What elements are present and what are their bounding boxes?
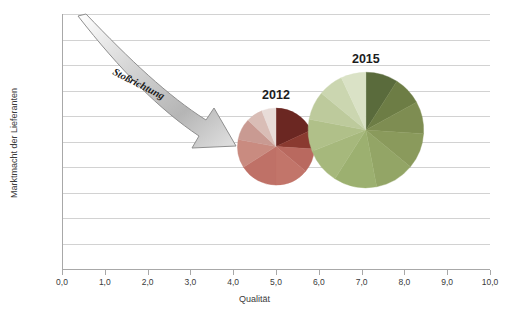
- x-tick-mark: [233, 270, 234, 275]
- gridline: [62, 14, 490, 15]
- x-tick-label: 0,0: [47, 277, 77, 287]
- x-tick-mark: [447, 270, 448, 275]
- plot-area: [62, 14, 490, 269]
- x-tick-mark: [362, 270, 363, 275]
- x-tick-mark: [190, 270, 191, 275]
- gridline: [62, 65, 490, 66]
- gridline: [62, 116, 490, 117]
- x-tick-label: 2,0: [133, 277, 163, 287]
- x-tick-label: 10,0: [475, 277, 505, 287]
- x-tick-mark: [319, 270, 320, 275]
- x-tick-label: 8,0: [389, 277, 419, 287]
- gridline: [62, 193, 490, 194]
- x-tick-label: 4,0: [218, 277, 248, 287]
- gridline: [62, 142, 490, 143]
- x-tick-label: 9,0: [432, 277, 462, 287]
- gridline: [62, 244, 490, 245]
- x-tick-mark: [276, 270, 277, 275]
- y-axis-line: [62, 14, 63, 270]
- x-tick-mark: [105, 270, 106, 275]
- x-axis-title: Qualität: [0, 294, 509, 304]
- bubble-pie-chart: 10,09,08,07,06,05,04,03,02,01,00,0 Stoßr…: [0, 0, 509, 314]
- y-axis-title: Marktmacht der Lieferanten: [9, 53, 19, 233]
- gridline: [62, 218, 490, 219]
- x-tick-mark: [148, 270, 149, 275]
- x-tick-mark: [404, 270, 405, 275]
- x-tick-mark: [490, 270, 491, 275]
- gridline: [62, 40, 490, 41]
- pie-label-2012: 2012: [236, 88, 316, 102]
- gridline: [62, 167, 490, 168]
- x-tick-label: 6,0: [304, 277, 334, 287]
- pie-label-2015: 2015: [326, 52, 406, 66]
- x-tick-label: 5,0: [261, 277, 291, 287]
- x-tick-mark: [62, 270, 63, 275]
- x-tick-label: 3,0: [175, 277, 205, 287]
- x-tick-label: 7,0: [347, 277, 377, 287]
- x-tick-label: 1,0: [90, 277, 120, 287]
